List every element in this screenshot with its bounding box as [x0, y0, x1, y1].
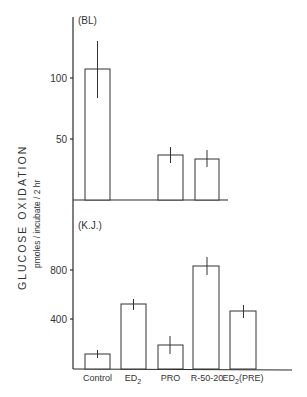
x-label-r5020: R-50-20 [191, 373, 224, 383]
x-axis-labels: Control ED2 PRO R-50-20 ED2(PRE) [83, 373, 263, 385]
bottom-panel: (K.J.) 800 400 [50, 200, 292, 370]
bar-bottom-r5020 [193, 266, 219, 369]
top-panel-label: (BL) [78, 15, 97, 26]
tick-label-100: 100 [50, 73, 67, 84]
bar-bottom-ed2pre [230, 311, 256, 369]
top-panel: (BL) 100 50 [50, 15, 228, 200]
glucose-oxidation-chart: GLUCOSE OXIDATION pmoles / incubate / 2 … [0, 0, 307, 397]
tick-label-800: 800 [50, 265, 67, 276]
x-label-pro: PRO [161, 373, 181, 383]
y-axis-label: GLUCOSE OXIDATION pmoles / incubate / 2 … [16, 145, 42, 290]
tick-label-50: 50 [56, 134, 68, 145]
y-axis-title: GLUCOSE OXIDATION [16, 145, 28, 290]
y-axis-units: pmoles / incubate / 2 hr [32, 179, 42, 268]
x-label-ed2: ED2 [125, 373, 142, 385]
tick-label-400: 400 [50, 314, 67, 325]
x-label-ed2pre: ED2(PRE) [223, 373, 264, 385]
x-label-control: Control [83, 373, 112, 383]
bottom-panel-label: (K.J.) [78, 220, 102, 231]
bar-bottom-ed2 [121, 304, 146, 369]
